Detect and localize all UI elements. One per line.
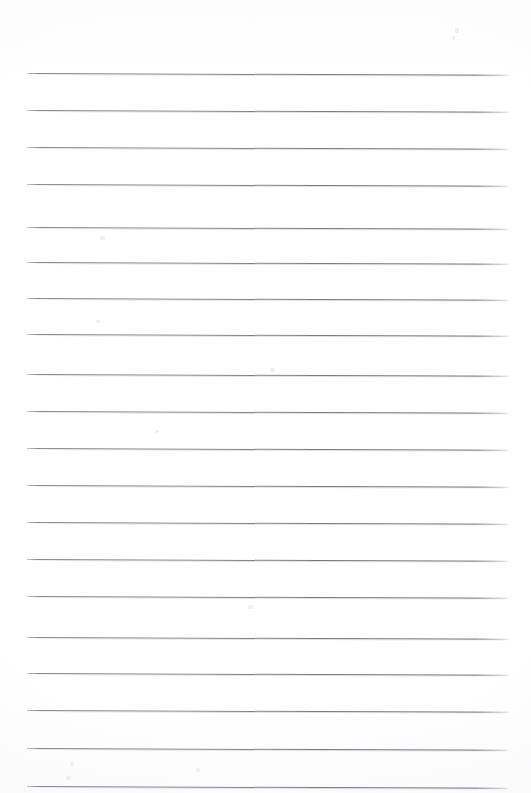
ruled-line — [27, 334, 510, 337]
ruled-line — [27, 374, 510, 377]
ruled-line — [27, 710, 510, 713]
ruled-line — [27, 559, 510, 562]
ruled-line — [27, 184, 510, 187]
ruled-line — [27, 411, 510, 414]
ruled-line — [27, 485, 510, 488]
ruled-line — [27, 637, 510, 640]
ruled-line — [27, 298, 510, 301]
ruled-line — [27, 147, 510, 150]
ruled-line — [27, 596, 510, 599]
ruled-line — [27, 110, 510, 113]
ruled-line — [27, 73, 510, 76]
scanned-paper-sheet — [0, 0, 531, 793]
ruled-line — [27, 262, 510, 265]
ruled-line — [27, 786, 510, 789]
ruled-line — [27, 227, 510, 230]
ruled-line — [27, 748, 510, 751]
ruled-line — [27, 522, 510, 525]
ruled-lines-group — [0, 0, 531, 793]
ruled-line — [27, 448, 510, 451]
ruled-line — [27, 673, 510, 676]
